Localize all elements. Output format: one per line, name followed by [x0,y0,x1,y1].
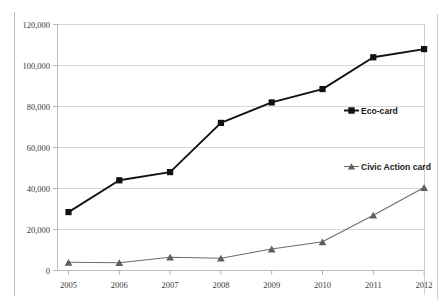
x-tick-label: 2007 [162,280,179,290]
x-tick-label: 2008 [212,280,229,290]
data-point-marker [167,169,173,175]
y-tick-label: 20,000 [27,225,50,235]
data-point-marker [319,86,325,92]
data-point-marker [370,54,376,60]
chart-canvas: 120,000 100,000 80,000 60,000 40,000 20,… [0,0,445,305]
x-tick-label: 2006 [111,280,128,290]
x-tick-label: 2009 [263,280,280,290]
x-tick-label: 2012 [416,280,433,290]
y-tick-label: 40,000 [27,184,50,194]
y-tick-label: 60,000 [27,143,50,153]
line-chart-figure: 120,000 100,000 80,000 60,000 40,000 20,… [0,0,445,305]
y-tick-label: 120,000 [22,20,50,30]
x-tick-label: 2011 [365,280,382,290]
data-point-marker [65,209,71,215]
data-point-marker [116,177,122,183]
data-point-marker [269,99,275,105]
square-marker-icon [348,107,354,113]
data-point-marker [218,120,224,126]
y-tick-label: 0 [46,266,50,276]
legend-label-eco-card: Eco-card [361,106,398,116]
legend-label-civic-action-card: Civic Action card [361,162,431,172]
x-tick-label: 2005 [60,280,77,290]
data-point-marker [421,46,427,52]
y-tick-label: 100,000 [22,61,50,71]
x-tick-label: 2010 [314,280,331,290]
y-tick-label: 80,000 [27,102,50,112]
